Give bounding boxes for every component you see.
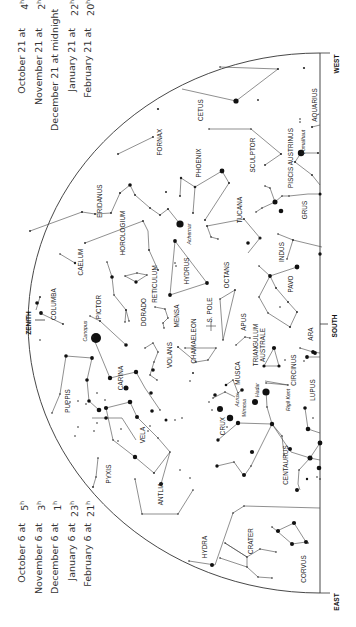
label-cetus: CETUS <box>197 99 204 121</box>
label-circinus: CIRCINUS <box>290 354 297 385</box>
label-pictor: PICTOR <box>95 295 102 320</box>
star-labels: Achernar Fomalhaut Canopus Acrux Mimosa … <box>82 129 306 417</box>
label-eridanus: ERIDANUS <box>96 184 103 217</box>
label-s-pole: S. POLE <box>206 297 213 322</box>
zenith-label: ZENITH <box>25 311 32 335</box>
east-label: EAST <box>333 593 340 610</box>
label-rigil-kent: Rigil Kent <box>285 388 291 411</box>
label-apus: APUS <box>240 313 247 331</box>
label-mimosa: Mimosa <box>241 399 247 417</box>
label-lupus: LUPUS <box>309 379 316 401</box>
star-rigil-kent <box>262 388 269 395</box>
star-canopus <box>91 333 101 343</box>
label-dorado: DORADO <box>140 298 147 326</box>
label-aquarius: AQUARIUS <box>311 88 319 122</box>
south-label: SOUTH <box>331 314 338 337</box>
label-australe: AUSTRALE <box>259 328 266 362</box>
label-grus: GRUS <box>301 201 308 220</box>
label-canopus: Canopus <box>82 320 88 341</box>
star-mimosa <box>227 415 233 421</box>
label-centaurus: CENTAURUS <box>282 445 289 485</box>
label-horologium: HOROLOGIUM <box>119 211 126 256</box>
label-reticulum: RETICULUM <box>151 265 158 303</box>
west-label: WEST <box>333 55 340 74</box>
label-fomalhaut: Fomalhaut <box>300 129 306 154</box>
label-sculptor: SCULPTOR <box>249 137 256 172</box>
star-map: WEST EAST SOUTH ZENITH <box>0 0 356 627</box>
label-octans: OCTANS <box>223 262 230 288</box>
label-carina: CARINA <box>117 365 124 390</box>
label-chamaeleon: CHAMAELEON <box>190 318 197 363</box>
label-ara: ARA <box>307 327 314 341</box>
label-antlia: ANTLIA <box>157 482 164 505</box>
label-achernar: Achernar <box>186 223 192 245</box>
label-crater: CRATER <box>247 528 254 554</box>
label-pyxis: PYXIS <box>105 464 112 483</box>
label-volans: VOLANS <box>166 342 173 368</box>
label-acrux: Acrux <box>234 393 240 408</box>
label-vela: VELA <box>139 426 146 443</box>
label-hadar: Hadar <box>254 383 260 397</box>
label-musca: MUSCA <box>234 361 241 385</box>
label-piscis-austrinus: PISCIS AUSTRINUS <box>287 128 294 188</box>
label-caelum: CAELUM <box>77 249 84 276</box>
constellation-labels: CETUS FORNAX AQUARIUS SCULPTOR PISCIS AU… <box>50 88 319 583</box>
label-pavo: PAVO <box>287 276 294 293</box>
label-fornax: FORNAX <box>156 128 163 156</box>
label-phoenix: PHOENIX <box>195 148 202 178</box>
star-achernar <box>176 220 183 227</box>
label-mensa: MENSA <box>173 304 180 328</box>
star-hadar <box>252 399 258 405</box>
label-crux: CRUX <box>219 416 226 435</box>
label-triangulum: TRIANGULUM <box>252 324 259 367</box>
label-columba: COLUMBA <box>50 287 57 320</box>
label-tucana: TUCANA <box>236 196 243 223</box>
label-hydra: HYDRA <box>201 535 208 558</box>
label-puppis: PUPPIS <box>64 389 71 413</box>
star-acrux <box>217 406 223 412</box>
label-hydrus: HYDRUS <box>183 257 190 284</box>
label-indus: INDUS <box>278 242 285 262</box>
label-corvus: CORVUS <box>300 555 307 582</box>
